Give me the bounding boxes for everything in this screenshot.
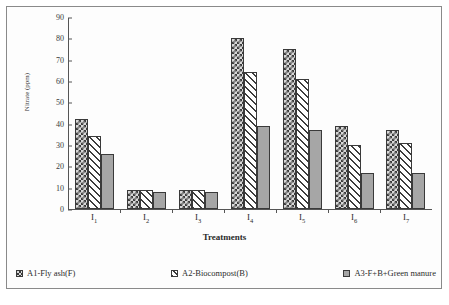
x-axis-tick-label: I7 xyxy=(383,212,429,228)
bar xyxy=(205,192,218,209)
x-axis-tick-mark xyxy=(380,210,381,213)
bar-group xyxy=(127,18,166,209)
bar xyxy=(257,126,270,209)
bar xyxy=(231,38,244,209)
bar-group xyxy=(283,18,322,209)
y-axis-tick-label: 70 xyxy=(56,57,64,65)
bar-chart-figure: Nitrate (ppm) 9080706050403020100 I1I2I3… xyxy=(0,0,449,305)
legend-item-label: A2-Biocompost(B) xyxy=(182,268,248,278)
y-axis-tick-labels: 9080706050403020100 xyxy=(40,18,64,210)
legend-item-label: A3-F+B+Green manure xyxy=(354,268,436,278)
x-axis-tick-label: I2 xyxy=(123,212,169,228)
y-axis-title: Nitrate (ppm) xyxy=(23,47,31,137)
bar-group xyxy=(231,18,270,209)
y-axis-tick-label: 40 xyxy=(56,121,64,129)
x-axis-title: Treatments xyxy=(0,232,449,242)
bar-group xyxy=(386,18,425,209)
bar xyxy=(179,190,192,209)
x-axis-tick-label: I3 xyxy=(175,212,221,228)
bar xyxy=(348,145,361,209)
y-axis-tick-label: 0 xyxy=(60,206,64,214)
y-axis-tick-label: 80 xyxy=(56,35,64,43)
bar-group xyxy=(75,18,114,209)
bar-group xyxy=(179,18,218,209)
legend-item: A3-F+B+Green manure xyxy=(343,268,436,278)
bar xyxy=(88,136,101,209)
bar xyxy=(335,126,348,209)
bar xyxy=(399,143,412,209)
bar xyxy=(75,119,88,209)
y-axis-tick-label: 30 xyxy=(56,142,64,150)
solid-grey-swatch xyxy=(343,270,350,277)
x-axis-tick-label: I1 xyxy=(71,212,117,228)
bar xyxy=(244,72,257,209)
legend-item: A1-Fly ash(F) xyxy=(16,268,75,278)
bar xyxy=(101,154,114,209)
bar xyxy=(140,190,153,209)
x-axis-tick-labels: I1I2I3I4I5I6I7 xyxy=(68,212,432,228)
x-axis-tick-mark xyxy=(276,210,277,213)
x-axis-tick-mark xyxy=(224,210,225,213)
bar xyxy=(283,49,296,209)
bars-layer xyxy=(69,18,432,209)
bar xyxy=(386,130,399,209)
bar xyxy=(361,173,374,209)
x-axis-tick-mark xyxy=(328,210,329,213)
x-axis-tick-label: I6 xyxy=(331,212,377,228)
legend-item-label: A1-Fly ash(F) xyxy=(27,268,75,278)
bar-group xyxy=(335,18,374,209)
hatch-swatch xyxy=(171,270,178,277)
y-axis-tick-label: 10 xyxy=(56,185,64,193)
bar xyxy=(153,192,166,209)
bar xyxy=(127,190,140,209)
y-axis-tick-label: 20 xyxy=(56,163,64,171)
y-axis-tick-label: 60 xyxy=(56,78,64,86)
bar xyxy=(296,79,309,209)
bar xyxy=(412,173,425,209)
bar xyxy=(192,190,205,209)
checker-swatch xyxy=(16,270,23,277)
y-axis-tick-label: 50 xyxy=(56,99,64,107)
x-axis-tick-mark xyxy=(120,210,121,213)
y-axis-tick-label: 90 xyxy=(56,14,64,22)
legend-item: A2-Biocompost(B) xyxy=(171,268,248,278)
x-axis-tick-label: I5 xyxy=(279,212,325,228)
plot-area xyxy=(68,18,432,210)
chart-legend: A1-Fly ash(F)A2-Biocompost(B)A3-F+B+Gree… xyxy=(16,268,436,278)
x-axis-tick-label: I4 xyxy=(227,212,273,228)
x-axis-tick-mark xyxy=(172,210,173,213)
bar xyxy=(309,130,322,209)
